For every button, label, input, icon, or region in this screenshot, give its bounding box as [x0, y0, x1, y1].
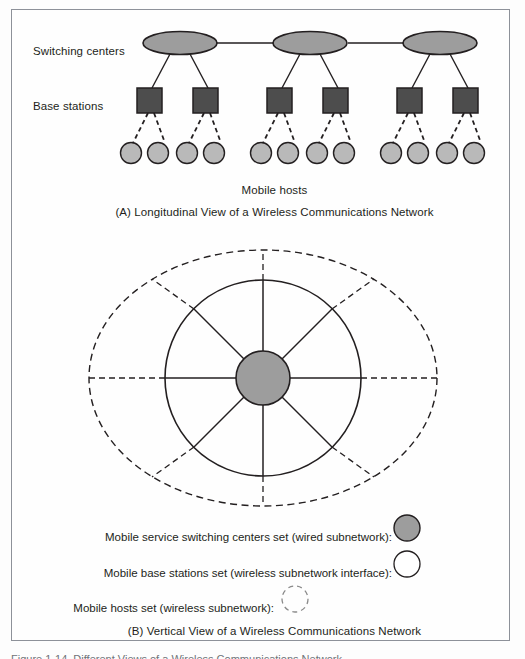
base-to-host-links	[133, 113, 481, 143]
switching-center-node	[273, 32, 347, 55]
base-station-node	[397, 88, 422, 113]
mobile-host-node	[334, 143, 355, 164]
legend-swatch-dashed-circle	[282, 586, 308, 612]
switching-to-base-links	[152, 54, 468, 88]
mobile-host-node	[464, 143, 485, 164]
base-station-node	[193, 88, 218, 113]
panel-b-diagram	[89, 250, 441, 506]
legend-swatch-open-circle	[394, 551, 420, 577]
figure-frame: Switching centers Base stations Mobile h…	[11, 9, 510, 641]
mobile-host-node	[307, 143, 328, 164]
label-switching-centers: Switching centers	[33, 45, 125, 57]
legend-label-switching-centers-set: Mobile service switching centers set (wi…	[72, 531, 392, 543]
mobile-host-node	[278, 143, 299, 164]
legend-label-mobile-hosts-set: Mobile hosts set (wireless subnetwork):	[72, 602, 274, 614]
switching-center-node	[403, 32, 477, 55]
base-station-nodes	[137, 88, 478, 113]
mobile-host-nodes	[121, 143, 485, 164]
label-mobile-hosts: Mobile hosts	[12, 184, 525, 196]
legend-label-base-stations-set: Mobile base stations set (wireless subne…	[72, 567, 392, 579]
switching-center-node	[143, 32, 217, 55]
base-station-node	[267, 88, 292, 113]
mobile-host-node	[148, 143, 169, 164]
switching-center-nodes	[143, 32, 477, 55]
mobile-host-node	[121, 143, 142, 164]
base-station-node	[453, 88, 478, 113]
legend-swatch-filled-gray-circle	[394, 515, 420, 541]
switching-centers-set-core	[236, 351, 290, 405]
mobile-host-node	[381, 143, 402, 164]
panel-b-caption: (B) Vertical View of a Wireless Communic…	[12, 625, 525, 637]
panel-a-caption: (A) Longitudinal View of a Wireless Comm…	[12, 206, 525, 218]
mobile-host-node	[204, 143, 225, 164]
figure-page: Switching centers Base stations Mobile h…	[0, 0, 525, 659]
label-base-stations: Base stations	[33, 100, 103, 112]
mobile-host-node	[437, 143, 458, 164]
mobile-host-node	[408, 143, 429, 164]
figure-number-caption: Figure 1-14. Different Views of a Wirele…	[11, 648, 451, 659]
mobile-host-node	[251, 143, 272, 164]
base-station-node	[323, 88, 348, 113]
legend-swatches	[282, 515, 420, 612]
mobile-host-node	[177, 143, 198, 164]
base-station-node	[137, 88, 162, 113]
